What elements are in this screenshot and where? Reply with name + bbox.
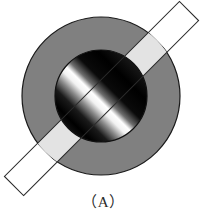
figure-caption: （A） (0, 190, 207, 211)
inner-gradient-disc (55, 50, 147, 142)
figure-illustration (0, 0, 207, 219)
figure-container: （A） (0, 0, 207, 219)
